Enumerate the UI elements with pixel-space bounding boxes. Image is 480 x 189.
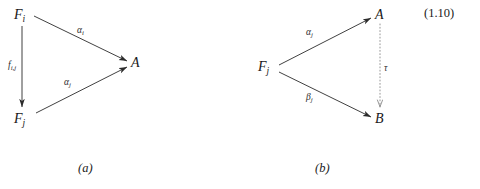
arrow-label-beta-j: βj [306,93,313,104]
arrow-line-f-j-to-b [279,72,371,117]
caption-a: (a) [78,162,93,175]
arrow-label-alpha-i-subscript: i [82,29,84,37]
node-f-j-subscript: j [267,66,270,76]
arrow-label-alpha-j: αj [306,28,313,39]
arrow-label-f-i-j: fi,j [8,61,16,72]
arrow-label-alpha-j-subscript: j [311,31,313,39]
node-b-base: B [375,111,384,126]
arrow-label-f-i-j-subscript: i,j [11,64,17,72]
node-f-i: Fi [14,8,25,24]
diagram-a-arrows [22,16,127,113]
node-f-i-subscript: i [23,14,26,24]
node-b: B [375,112,384,126]
arrow-label-alpha-j: αj [64,78,71,89]
node-f-j-base: F [14,111,23,126]
node-f-j: Fj [258,60,269,76]
node-f-j-subscript: j [23,118,26,128]
arrow-label-alpha-j-subscript: j [69,81,71,89]
node-f-j-base: F [258,59,267,74]
arrow-line-f-j-to-a [36,67,127,113]
node-f-j: Fj [14,112,25,128]
arrow-label-alpha-i: αi [77,26,84,37]
diagram-canvas [0,0,480,189]
node-f-i-base: F [14,7,23,22]
diagram-b-arrows [279,18,380,117]
arrow-label-beta-j-subscript: j [311,96,313,104]
node-a-base: A [375,7,384,22]
equation-number: (1.10) [424,7,454,20]
caption-b: (b) [315,162,330,175]
node-a: A [375,8,384,22]
arrow-line-f-j-to-a [279,18,371,65]
node-a-base: A [131,55,140,70]
node-a: A [131,56,140,70]
arrow-label-tau-base: τ [384,63,387,73]
arrow-line-f-i-to-a [34,16,127,61]
arrow-label-tau: τ [384,64,387,74]
